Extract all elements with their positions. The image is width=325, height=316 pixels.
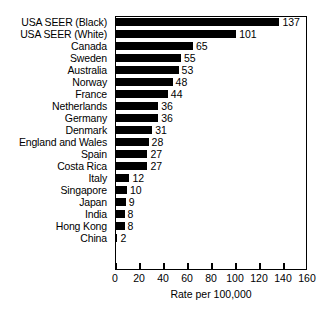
bar-value-label: 36 xyxy=(158,112,173,124)
bar-value-label: 48 xyxy=(173,76,188,88)
x-tick-label: 60 xyxy=(181,271,193,285)
category-label: Japan xyxy=(0,196,111,208)
bar-value-label: 137 xyxy=(279,16,300,28)
bar-row: 2 xyxy=(115,232,307,244)
bar-row: 9 xyxy=(115,196,307,208)
x-axis-ticks xyxy=(115,262,307,270)
bar-value-label: 9 xyxy=(126,196,135,208)
category-label: Denmark xyxy=(0,124,111,136)
category-label: USA SEER (White) xyxy=(0,28,111,40)
bar xyxy=(115,78,173,86)
bar-value-label: 65 xyxy=(193,40,208,52)
bar xyxy=(115,114,158,122)
category-label: Sweden xyxy=(0,52,111,64)
category-label: India xyxy=(0,208,111,220)
bar xyxy=(115,18,279,26)
x-tick-label: 40 xyxy=(157,271,169,285)
bar-value-label: 28 xyxy=(149,136,164,148)
category-label: England and Wales xyxy=(0,136,111,148)
bar-row: 53 xyxy=(115,64,307,76)
bar-value-label: 27 xyxy=(147,160,162,172)
bar xyxy=(115,42,193,50)
category-label: Norway xyxy=(0,76,111,88)
x-tick xyxy=(187,263,189,270)
bar-row: 48 xyxy=(115,76,307,88)
category-label: Germany xyxy=(0,112,111,124)
category-label: Australia xyxy=(0,64,111,76)
bar xyxy=(115,66,179,74)
bar-chart: USA SEER (Black)USA SEER (White)CanadaSw… xyxy=(0,0,325,316)
category-label: Spain xyxy=(0,148,111,160)
bar xyxy=(115,90,168,98)
x-axis-title: Rate per 100,000 xyxy=(115,288,307,300)
x-tick xyxy=(115,263,117,270)
bar-row: 10 xyxy=(115,184,307,196)
category-label: Hong Kong xyxy=(0,220,111,232)
bar-row: 12 xyxy=(115,172,307,184)
bar xyxy=(115,222,125,230)
bar-row: 65 xyxy=(115,40,307,52)
x-tick xyxy=(259,263,261,270)
x-tick-label: 100 xyxy=(226,271,244,285)
bar-value-label: 55 xyxy=(181,52,196,64)
x-tick-label: 80 xyxy=(205,271,217,285)
bar xyxy=(115,186,127,194)
bar-value-label: 8 xyxy=(125,208,134,220)
bar xyxy=(115,138,149,146)
x-axis-tick-labels: 020406080100120140160 xyxy=(115,271,307,285)
category-label: Singapore xyxy=(0,184,111,196)
bar-value-label: 101 xyxy=(236,28,257,40)
bar-value-label: 8 xyxy=(125,220,134,232)
bar-value-label: 27 xyxy=(147,148,162,160)
bar xyxy=(115,198,126,206)
x-tick xyxy=(283,263,285,270)
bar xyxy=(115,30,236,38)
bar-value-label: 31 xyxy=(152,124,167,136)
bar xyxy=(115,126,152,134)
x-tick-label: 120 xyxy=(250,271,268,285)
x-tick-label: 160 xyxy=(298,271,316,285)
bar-value-label: 53 xyxy=(179,64,194,76)
x-tick xyxy=(163,263,165,270)
bar-row: 8 xyxy=(115,208,307,220)
category-axis-labels: USA SEER (Black)USA SEER (White)CanadaSw… xyxy=(0,16,111,244)
x-tick xyxy=(139,263,141,270)
x-tick-label: 20 xyxy=(133,271,145,285)
category-label: Canada xyxy=(0,40,111,52)
bar-row: 36 xyxy=(115,112,307,124)
category-label: Costa Rica xyxy=(0,160,111,172)
bar-value-label: 2 xyxy=(117,232,126,244)
bar xyxy=(115,150,147,158)
bar-row: 27 xyxy=(115,148,307,160)
x-tick xyxy=(211,263,213,270)
bar-value-label: 12 xyxy=(129,172,144,184)
bar-row: 27 xyxy=(115,160,307,172)
bar-row: 101 xyxy=(115,28,307,40)
bar xyxy=(115,54,181,62)
bar xyxy=(115,210,125,218)
bar xyxy=(115,162,147,170)
bar xyxy=(115,174,129,182)
category-label: Netherlands xyxy=(0,100,111,112)
bar xyxy=(115,102,158,110)
bar-row: 36 xyxy=(115,100,307,112)
bar-row: 8 xyxy=(115,220,307,232)
bar-value-label: 44 xyxy=(168,88,183,100)
category-label: Italy xyxy=(0,172,111,184)
x-tick-label: 140 xyxy=(274,271,292,285)
x-tick xyxy=(306,263,308,270)
x-tick xyxy=(235,263,237,270)
bars-layer: 137101655553484436363128272712109882 xyxy=(115,16,307,270)
bar-value-label: 10 xyxy=(127,184,142,196)
category-label: USA SEER (Black) xyxy=(0,16,111,28)
category-label: China xyxy=(0,232,111,244)
x-tick-label: 0 xyxy=(112,271,118,285)
bar-value-label: 36 xyxy=(158,100,173,112)
bar-row: 31 xyxy=(115,124,307,136)
bar-row: 44 xyxy=(115,88,307,100)
category-label: France xyxy=(0,88,111,100)
bar-row: 28 xyxy=(115,136,307,148)
bar-row: 55 xyxy=(115,52,307,64)
bar-row: 137 xyxy=(115,16,307,28)
